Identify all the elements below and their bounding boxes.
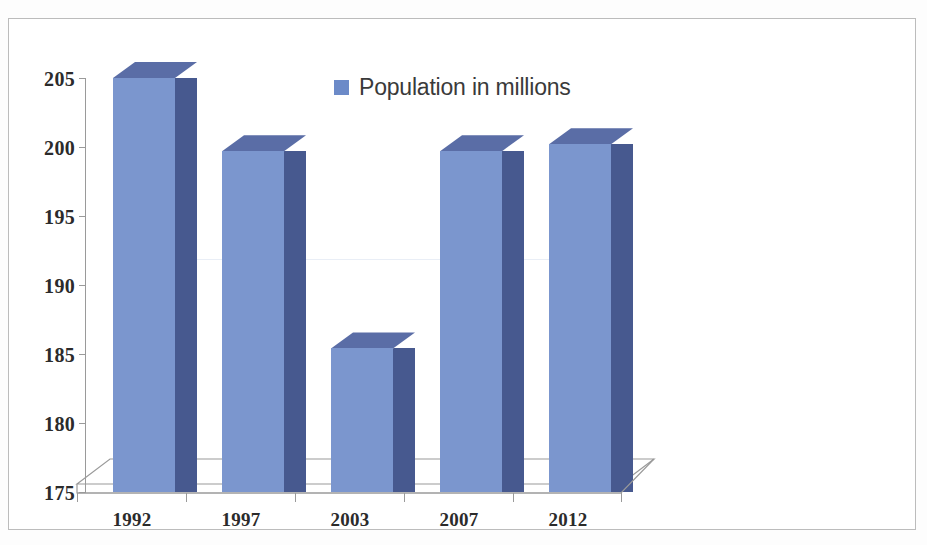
y-axis-label-180: 180 <box>17 413 75 436</box>
x-axis-label-2012: 2012 <box>523 509 613 531</box>
y-tick-175 <box>79 492 86 493</box>
y-tick-200 <box>79 147 86 148</box>
bar-chart[interactable]: 205 200 195 190 185 180 175 <box>9 19 915 529</box>
bar-2003-top-face <box>331 332 415 348</box>
x-tick-1 <box>186 493 187 502</box>
bar-1992-top-face <box>113 62 197 78</box>
bar-2007[interactable] <box>440 135 524 492</box>
x-tick-3 <box>404 493 405 502</box>
chart-legend[interactable]: Population in millions <box>334 74 571 101</box>
legend-color-swatch-icon <box>334 80 349 95</box>
bar-2012-side-face <box>611 144 633 492</box>
bar-1992[interactable] <box>113 62 197 492</box>
y-tick-185 <box>79 354 86 355</box>
bar-2007-front-face <box>440 151 502 492</box>
y-tick-180 <box>79 423 86 424</box>
bar-2012-top-face <box>549 128 633 144</box>
bar-1997-top-face <box>222 135 306 151</box>
x-tick-5 <box>621 493 622 502</box>
y-axis-label-190: 190 <box>17 275 75 298</box>
bar-2012-front-face <box>549 144 611 492</box>
bar-1992-front-face <box>113 78 175 492</box>
x-tick-0 <box>77 493 78 502</box>
y-axis-label-185: 185 <box>17 344 75 367</box>
bar-2007-side-face <box>502 151 524 492</box>
chart-frame-border: 205 200 195 190 185 180 175 <box>8 18 916 530</box>
bar-2012[interactable] <box>549 128 633 492</box>
bar-2003[interactable] <box>331 332 415 492</box>
bar-1997-side-face <box>284 151 306 492</box>
y-axis-label-200: 200 <box>17 137 75 160</box>
x-tick-4 <box>513 493 514 502</box>
bar-2007-top-face <box>440 135 524 151</box>
y-axis-label-195: 195 <box>17 206 75 229</box>
y-tick-190 <box>79 285 86 286</box>
y-tick-195 <box>79 216 86 217</box>
bar-1997[interactable] <box>222 135 306 492</box>
x-tick-2 <box>295 493 296 502</box>
bar-2003-front-face <box>331 348 393 492</box>
y-axis-label-175: 175 <box>17 482 75 505</box>
y-axis-label-205: 205 <box>17 68 75 91</box>
x-axis-label-2007: 2007 <box>414 509 504 531</box>
x-axis-label-1997: 1997 <box>196 509 286 531</box>
y-tick-205 <box>79 78 86 79</box>
legend-label: Population in millions <box>359 74 571 101</box>
x-axis-label-1992: 1992 <box>87 509 177 531</box>
bar-1992-side-face <box>175 78 197 492</box>
x-axis-label-2003: 2003 <box>305 509 395 531</box>
bar-1997-front-face <box>222 151 284 492</box>
bar-2003-side-face <box>393 348 415 492</box>
